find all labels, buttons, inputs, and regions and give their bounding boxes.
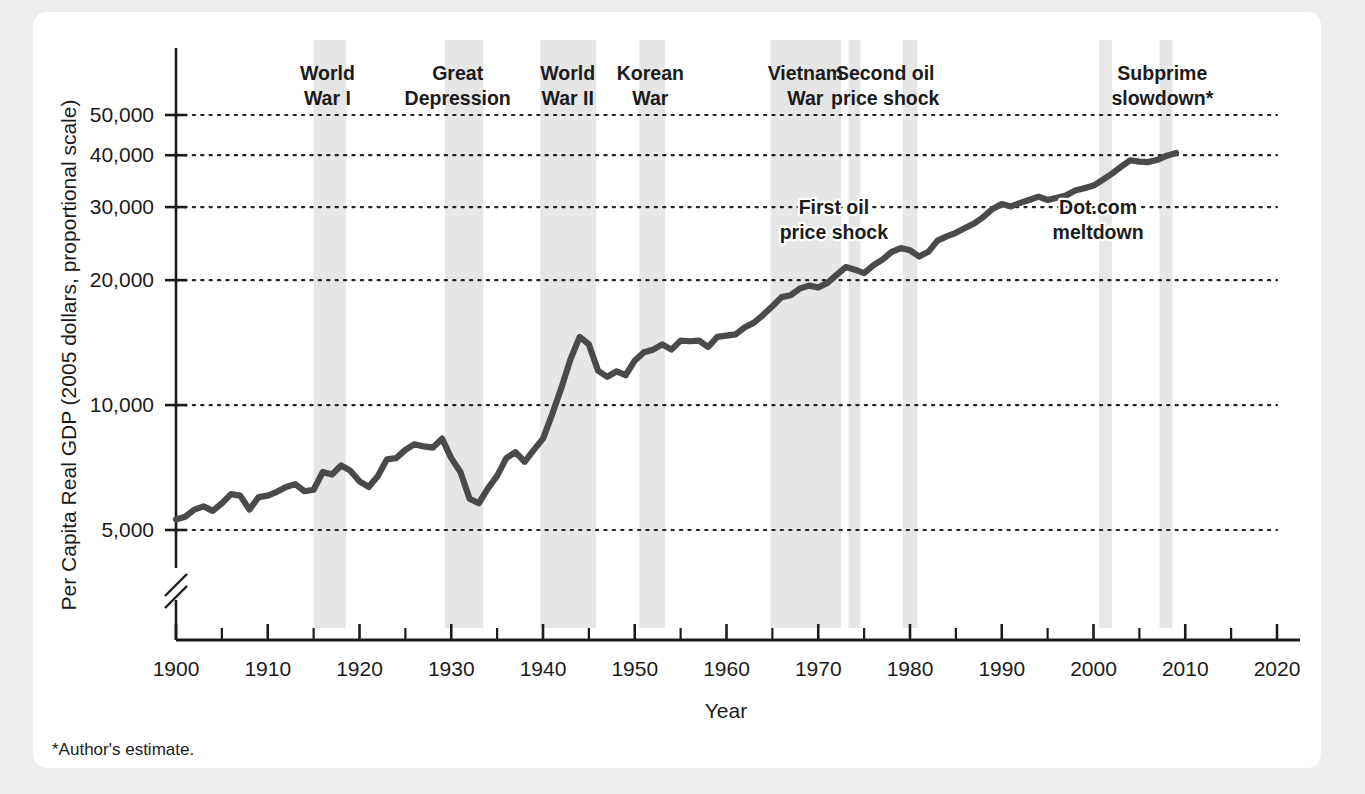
event-bands: [314, 40, 1173, 628]
annotation-inner-1-line-0: Dot.com: [1059, 196, 1137, 218]
annotation-top-2-line-1: War II: [542, 87, 594, 109]
annotation-top-6-line-0: Subprime: [1117, 62, 1207, 84]
event-band-2: [540, 40, 596, 628]
y-tick-label-50,000: 50,000: [90, 103, 154, 126]
event-band-1: [445, 40, 484, 628]
annotation-inner-0-line-0: First oil: [799, 196, 869, 218]
x-tick-label-1960: 1960: [703, 657, 750, 680]
x-axis-title: Year: [705, 699, 747, 722]
annotation-inner-0-line-1: price shock: [780, 221, 889, 243]
y-tick-label-30,000: 30,000: [90, 195, 154, 218]
event-band-inner-1: [1099, 40, 1112, 628]
annotation-inner-1-line-1: meltdown: [1053, 221, 1144, 243]
x-tick-label-1990: 1990: [978, 657, 1025, 680]
annotation-top-5-line-0: Second oil: [836, 62, 935, 84]
event-band-0: [314, 40, 346, 628]
event-band-inner-0: [849, 40, 861, 628]
x-tick-label-1930: 1930: [428, 657, 475, 680]
annotation-top-3-line-0: Korean: [617, 62, 684, 84]
x-tick-label-1980: 1980: [887, 657, 934, 680]
annotation-top-3-line-1: War: [632, 87, 669, 109]
gdp-line-chart: 5,00010,00020,00030,00040,00050,00019001…: [0, 0, 1365, 794]
x-tick-label-1940: 1940: [520, 657, 567, 680]
annotations: WorldWar IGreatDepressionWorldWar IIKore…: [300, 62, 1214, 243]
y-axis-ticks: 5,00010,00020,00030,00040,00050,000: [90, 103, 187, 541]
y-axis-title: Per Capita Real GDP (2005 dollars, propo…: [57, 100, 80, 611]
y-tick-label-20,000: 20,000: [90, 268, 154, 291]
y-tick-label-40,000: 40,000: [90, 143, 154, 166]
y-tick-label-5,000: 5,000: [101, 518, 154, 541]
x-tick-label-1970: 1970: [795, 657, 842, 680]
annotation-top-1-line-0: Great: [432, 62, 483, 84]
x-tick-label-2020: 2020: [1254, 657, 1301, 680]
event-band-3: [639, 40, 665, 628]
x-tick-label-1910: 1910: [244, 657, 291, 680]
x-tick-label-1920: 1920: [336, 657, 383, 680]
event-band-4: [771, 40, 842, 628]
annotation-top-6-line-1: slowdown*: [1111, 87, 1213, 109]
x-tick-label-2000: 2000: [1070, 657, 1117, 680]
annotation-top-4-line-0: Vietnam: [768, 62, 844, 84]
annotation-top-0-line-1: War I: [304, 87, 351, 109]
event-band-5: [903, 40, 918, 628]
footnote: *Author's estimate.: [52, 740, 194, 759]
annotation-top-5-line-1: price shock: [831, 87, 940, 109]
x-tick-label-1900: 1900: [153, 657, 200, 680]
annotation-top-4-line-1: War: [787, 87, 824, 109]
x-tick-label-1950: 1950: [611, 657, 658, 680]
annotation-top-1-line-1: Depression: [405, 87, 511, 109]
x-tick-label-2010: 2010: [1162, 657, 1209, 680]
annotation-top-0-line-0: World: [300, 62, 355, 84]
event-band-6: [1160, 40, 1173, 628]
y-tick-label-10,000: 10,000: [90, 393, 154, 416]
chart-page: 5,00010,00020,00030,00040,00050,00019001…: [0, 0, 1365, 794]
annotation-top-2-line-0: World: [540, 62, 595, 84]
x-axis-ticks: 1900191019201930194019501960197019801990…: [153, 624, 1301, 680]
